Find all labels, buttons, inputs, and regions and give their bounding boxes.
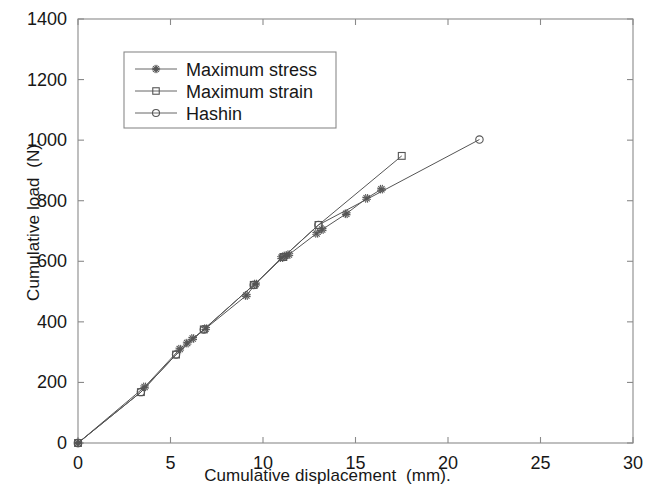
- y-tick-label: 0: [57, 433, 67, 453]
- chart-legend: Maximum stressMaximum strainHashin: [124, 52, 336, 128]
- legend-label: Hashin: [186, 104, 242, 124]
- series-maximum-strain: [75, 152, 406, 446]
- chart-figure: 0510152025300200400600800100012001400 Ma…: [0, 0, 655, 496]
- data-series-layer: [74, 136, 483, 447]
- series-line: [78, 156, 402, 443]
- series-maximum-stress: [74, 185, 386, 447]
- series-line: [78, 140, 479, 443]
- series-line: [78, 189, 381, 443]
- cumulative-load-vs-displacement-chart: 0510152025300200400600800100012001400 Ma…: [0, 0, 655, 496]
- y-axis-title: Cumulative load (N).: [24, 139, 44, 301]
- x-axis-title: Cumulative displacement (mm).: [0, 466, 655, 486]
- legend-label: Maximum strain: [186, 82, 313, 102]
- y-axis-title-wrap: Cumulative load (N).: [24, 0, 44, 440]
- series-hashin: [74, 136, 483, 447]
- legend-label: Maximum stress: [186, 60, 317, 80]
